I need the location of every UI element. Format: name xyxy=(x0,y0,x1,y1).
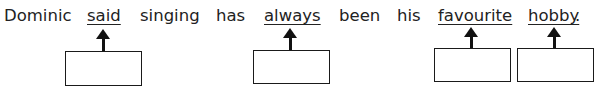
word-hobby: hobby xyxy=(528,6,579,26)
word-favourite: favourite xyxy=(438,6,512,26)
word-singing: singing xyxy=(140,6,200,26)
arrow-up-icon xyxy=(283,28,297,50)
answer-box-favourite[interactable] xyxy=(434,48,511,82)
answer-box-said[interactable] xyxy=(65,51,142,86)
arrow-up-icon xyxy=(547,27,561,48)
arrow-up-icon xyxy=(464,27,478,48)
word-been: been xyxy=(339,6,380,26)
word-has: has xyxy=(216,6,245,26)
answer-box-hobby[interactable] xyxy=(517,48,594,82)
word-dominic: Dominic xyxy=(4,6,72,26)
answer-box-always[interactable] xyxy=(253,50,330,84)
word-his: his xyxy=(397,6,421,26)
full-stop: . xyxy=(575,6,580,26)
word-always: always xyxy=(264,6,321,26)
word-said: said xyxy=(87,6,121,26)
arrow-up-icon xyxy=(96,29,110,51)
